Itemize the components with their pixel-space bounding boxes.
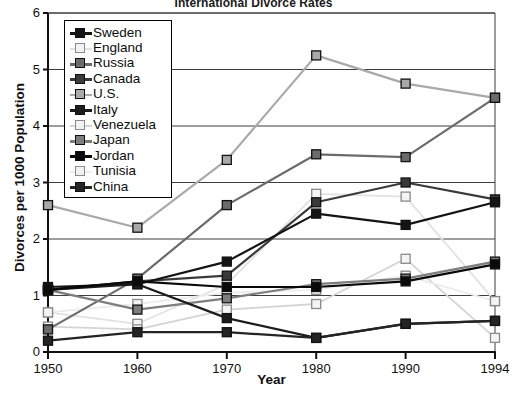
data-point-sweden-1994 — [491, 198, 500, 207]
legend-label: Japan — [92, 133, 130, 147]
legend-item-venezuela[interactable]: Venezuela — [70, 117, 165, 132]
data-point-russia-1990 — [401, 153, 410, 162]
data-point-venezuela-1990 — [401, 254, 410, 263]
data-point-japan-1970 — [222, 294, 231, 303]
legend-item-italy[interactable]: Italy — [70, 102, 165, 117]
data-point-jordan-1980 — [312, 283, 321, 292]
legend-marker — [70, 148, 92, 163]
data-point-china-1980 — [312, 333, 321, 342]
legend-square-swatch — [75, 43, 85, 53]
legend-square-swatch — [75, 166, 85, 176]
data-point-jordan-1994 — [491, 260, 500, 269]
data-point-sweden-1980 — [312, 209, 321, 218]
chart-legend: SwedenEnglandRussiaCanadaU.S.ItalyVenezu… — [64, 20, 172, 198]
data-point-venezuela-1994 — [491, 333, 500, 342]
legend-square-swatch — [75, 28, 85, 38]
legend-item-china[interactable]: China — [70, 179, 165, 194]
legend-square-swatch — [75, 151, 85, 161]
legend-marker — [70, 118, 92, 133]
legend-item-tunisia[interactable]: Tunisia — [70, 164, 165, 179]
data-point-tunisia-1994 — [491, 297, 500, 306]
legend-marker — [70, 164, 92, 179]
legend-label: U.S. — [92, 87, 119, 101]
legend-square-swatch — [75, 58, 85, 68]
data-point-jordan-1990 — [401, 277, 410, 286]
data-point-tunisia-1950 — [44, 308, 53, 317]
data-point-china-1970 — [222, 328, 231, 337]
legend-label: Venezuela — [92, 118, 156, 132]
legend-item-england[interactable]: England — [70, 40, 165, 55]
legend-item-sweden[interactable]: Sweden — [70, 25, 165, 40]
legend-marker — [70, 71, 92, 86]
data-point-russia-1970 — [222, 201, 231, 210]
data-point-us-1980 — [312, 51, 321, 60]
data-point-sweden-1990 — [401, 220, 410, 229]
data-point-canada-1970 — [222, 271, 231, 280]
data-point-england-1980 — [312, 189, 321, 198]
legend-marker — [70, 179, 92, 194]
legend-label: Jordan — [92, 149, 134, 163]
data-point-japan-1960 — [133, 305, 142, 314]
legend-square-swatch — [75, 74, 85, 84]
legend-marker — [70, 87, 92, 102]
data-point-us-1990 — [401, 79, 410, 88]
data-point-russia-1994 — [491, 93, 500, 102]
data-point-jordan-1950 — [44, 285, 53, 294]
legend-item-russia[interactable]: Russia — [70, 56, 165, 71]
legend-item-jordan[interactable]: Jordan — [70, 148, 165, 163]
data-point-russia-1950 — [44, 325, 53, 334]
legend-marker — [70, 25, 92, 40]
legend-square-swatch — [75, 135, 85, 145]
data-point-venezuela-1970 — [222, 305, 231, 314]
legend-square-swatch — [75, 182, 85, 192]
legend-square-swatch — [75, 120, 85, 130]
data-point-venezuela-1980 — [312, 300, 321, 309]
legend-label: England — [92, 41, 143, 55]
legend-label: China — [92, 180, 128, 194]
legend-label: Italy — [92, 103, 118, 117]
legend-item-canada[interactable]: Canada — [70, 71, 165, 86]
legend-square-swatch — [75, 89, 85, 99]
legend-item-japan[interactable]: Japan — [70, 133, 165, 148]
legend-label: Russia — [92, 56, 134, 70]
series-line-venezuela — [48, 259, 495, 338]
legend-marker — [70, 56, 92, 71]
series-line-china — [48, 321, 495, 341]
legend-item-us[interactable]: U.S. — [70, 87, 165, 102]
data-point-china-1950 — [44, 336, 53, 345]
legend-marker — [70, 102, 92, 117]
data-point-china-1990 — [401, 319, 410, 328]
legend-marker — [70, 133, 92, 148]
legend-label: Tunisia — [92, 164, 136, 178]
data-point-us-1970 — [222, 155, 231, 164]
data-point-canada-1980 — [312, 198, 321, 207]
data-point-italy-1970 — [222, 314, 231, 323]
data-point-jordan-1970 — [222, 283, 231, 292]
data-point-canada-1990 — [401, 178, 410, 187]
legend-label: Sweden — [92, 26, 142, 40]
data-point-us-1950 — [44, 201, 53, 210]
data-point-jordan-1960 — [133, 277, 142, 286]
data-point-us-1960 — [133, 223, 142, 232]
legend-square-swatch — [75, 105, 85, 115]
data-point-china-1994 — [491, 316, 500, 325]
data-point-sweden-1970 — [222, 257, 231, 266]
legend-label: Canada — [92, 72, 140, 86]
legend-marker — [70, 41, 92, 56]
data-point-russia-1980 — [312, 150, 321, 159]
data-point-china-1960 — [133, 328, 142, 337]
data-point-england-1990 — [401, 192, 410, 201]
